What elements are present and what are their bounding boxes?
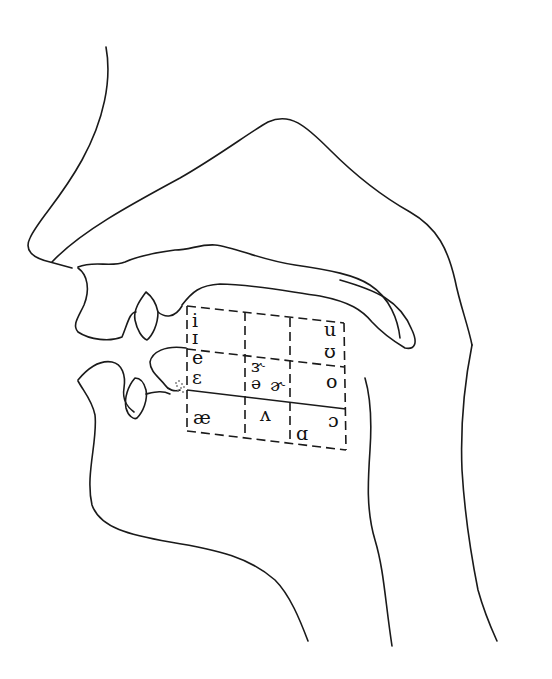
- grid-bottom-line: [187, 431, 346, 450]
- nasal-cavity-roof: [52, 119, 472, 345]
- hard-palate: [182, 280, 415, 348]
- vowel-schwa: ə: [251, 373, 261, 393]
- grid-row-divider-1: [187, 349, 344, 367]
- tongue-tip: [150, 347, 186, 390]
- vowel-chart-grid: [187, 306, 346, 450]
- vowel-o: o: [326, 370, 337, 392]
- pharynx-back-wall: [462, 345, 497, 641]
- upper-tooth: [135, 292, 158, 340]
- vowel-open-e: ɛ: [192, 366, 202, 388]
- upper-gum: [158, 306, 182, 316]
- vowel-ae: æ: [193, 406, 211, 428]
- vowel-script-a: ɑ: [296, 422, 308, 444]
- vowel-e: e: [192, 346, 203, 368]
- upper-lip: [76, 268, 136, 340]
- pharynx-front-wall: [365, 378, 392, 646]
- vowel-u: u: [324, 318, 336, 340]
- vowel-rhotic-schwa: ɚ: [270, 375, 286, 395]
- grid-top-line: [187, 306, 344, 323]
- vowel-upsilon: ʊ: [324, 340, 336, 362]
- vowel-open-o: ɔ: [328, 409, 339, 431]
- lower-tooth: [125, 378, 146, 419]
- vowel-small-i: ɪ: [192, 326, 198, 348]
- lower-gum: [146, 392, 170, 394]
- nose-profile: [28, 47, 108, 268]
- grid-right-line: [344, 323, 346, 450]
- vocal-tract-diagram: i ɪ e ɛ æ ɝ ə ɚ ʌ u ʊ o ɔ ɑ: [0, 0, 552, 679]
- vowel-wedge: ʌ: [259, 403, 271, 425]
